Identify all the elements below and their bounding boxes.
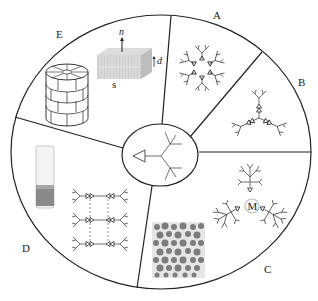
sector-c-metal-dendrimer: M — [209, 164, 290, 231]
dendron-icon — [133, 132, 182, 180]
sector-label-e: E — [56, 28, 63, 40]
divider-c-d — [137, 186, 152, 288]
divider-e-a — [162, 16, 171, 124]
sector-label-b: B — [298, 76, 305, 88]
substrate-label: s — [112, 78, 116, 90]
sector-label-d: D — [22, 242, 30, 254]
dendrimer-diagram: A B C D E M — [0, 0, 318, 301]
sector-label-c: C — [264, 263, 271, 275]
columnar-cylinder — [46, 64, 88, 126]
lamellar-block: n d s — [97, 26, 163, 90]
center-dendron — [122, 124, 198, 186]
sector-a-hexamer — [179, 45, 226, 91]
gel-vial — [36, 146, 54, 208]
sector-d-network — [72, 189, 128, 251]
micrograph-image — [152, 222, 205, 278]
normal-label: n — [119, 26, 124, 37]
sector-b-tricore — [231, 90, 288, 136]
spacing-label: d — [157, 55, 163, 66]
metal-label: M — [248, 200, 258, 212]
sector-label-a: A — [213, 9, 221, 21]
